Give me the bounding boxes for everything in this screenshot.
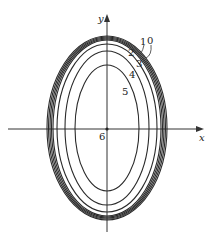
y-axis-label: y — [97, 13, 104, 24]
y-axis-arrow-icon — [104, 14, 110, 22]
curve-label-2: 2 — [128, 47, 134, 58]
origin-point — [105, 127, 108, 130]
curve-label-1: 1 — [140, 36, 146, 47]
axes — [8, 14, 204, 232]
curve-label-0: 0 — [147, 35, 153, 46]
x-axis-label: x — [199, 132, 205, 143]
curve-label-4: 4 — [129, 69, 135, 80]
curve-label-5: 5 — [122, 86, 128, 97]
curve-label-3: 3 — [136, 58, 142, 69]
leader-line-0 — [146, 45, 151, 58]
level-curves-diagram: y x 6 1 0 2 3 4 5 — [0, 0, 213, 232]
origin-label: 6 — [99, 131, 105, 142]
